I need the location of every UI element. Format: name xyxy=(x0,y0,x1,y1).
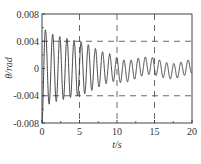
y-tick-label: -0.004 xyxy=(13,90,39,101)
x-tick-labels: 05101520 xyxy=(40,126,198,137)
y-tick-label: 0.008 xyxy=(17,9,40,20)
grid-lines xyxy=(42,14,192,123)
x-tick-label: 20 xyxy=(187,126,197,137)
x-tick-label: 5 xyxy=(77,126,82,137)
x-tick-label: 15 xyxy=(150,126,160,137)
chart: -0.008-0.00400.0040.008 05101520 t/s θ/r… xyxy=(0,0,201,164)
x-axis-title: t/s xyxy=(112,139,122,150)
y-tick-label: -0.008 xyxy=(13,118,39,129)
y-tick-label: 0.004 xyxy=(17,36,40,47)
y-tick-label: 0 xyxy=(34,63,39,74)
theta-line xyxy=(42,30,192,123)
y-tick-labels: -0.008-0.00400.0040.008 xyxy=(13,9,39,129)
x-tick-label: 0 xyxy=(40,126,45,137)
x-tick-label: 10 xyxy=(112,126,122,137)
y-axis-title: θ/rad xyxy=(3,56,14,79)
